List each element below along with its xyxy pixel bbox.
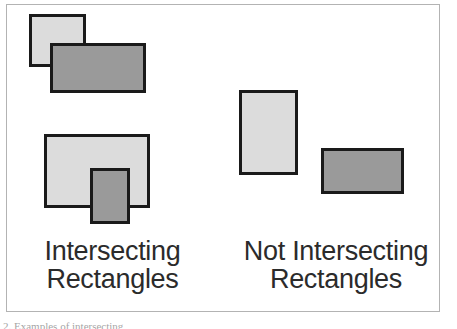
figure-footnote: 2. Examples of intersecting xyxy=(3,320,303,329)
not-intersecting-light-rectangle xyxy=(239,90,298,175)
intersecting-caption: Intersecting Rectangles xyxy=(10,238,215,293)
intersecting-pair-2-dark-rectangle xyxy=(90,168,130,224)
figure-root: Intersecting Rectangles Not Intersecting… xyxy=(0,0,457,329)
not-intersecting-caption: Not Intersecting Rectangles xyxy=(222,238,450,293)
intersecting-pair-1-dark-rectangle xyxy=(50,43,146,93)
not-intersecting-dark-rectangle xyxy=(321,148,404,194)
